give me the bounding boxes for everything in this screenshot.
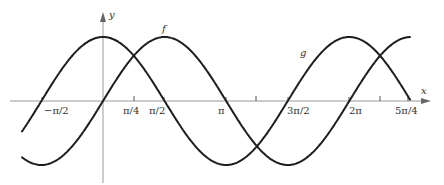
tick-label-pi-2: π/2 bbox=[149, 105, 165, 116]
curve-label-f: f bbox=[161, 23, 168, 34]
tick-label-3pi-2: 3π/2 bbox=[287, 105, 310, 116]
x-axis-arrow-icon bbox=[421, 98, 431, 104]
tick-label-pi-4: π/4 bbox=[123, 105, 139, 116]
tick-label-neg-pi-2: −π/2 bbox=[44, 105, 69, 116]
tick-label-pi: π bbox=[218, 105, 225, 116]
tick-label-5pi-4: 5π/4 bbox=[395, 105, 418, 116]
tick-label-2pi: 2π bbox=[349, 105, 362, 116]
x-axis-label: x bbox=[421, 85, 427, 96]
y-axis-label: y bbox=[108, 9, 115, 20]
function-plot: x y −π/2 π/4 π/2 π 3π/2 2π 5π/4 f g bbox=[0, 0, 444, 185]
curve-label-g: g bbox=[300, 47, 306, 58]
y-axis-arrow-icon bbox=[100, 12, 106, 22]
